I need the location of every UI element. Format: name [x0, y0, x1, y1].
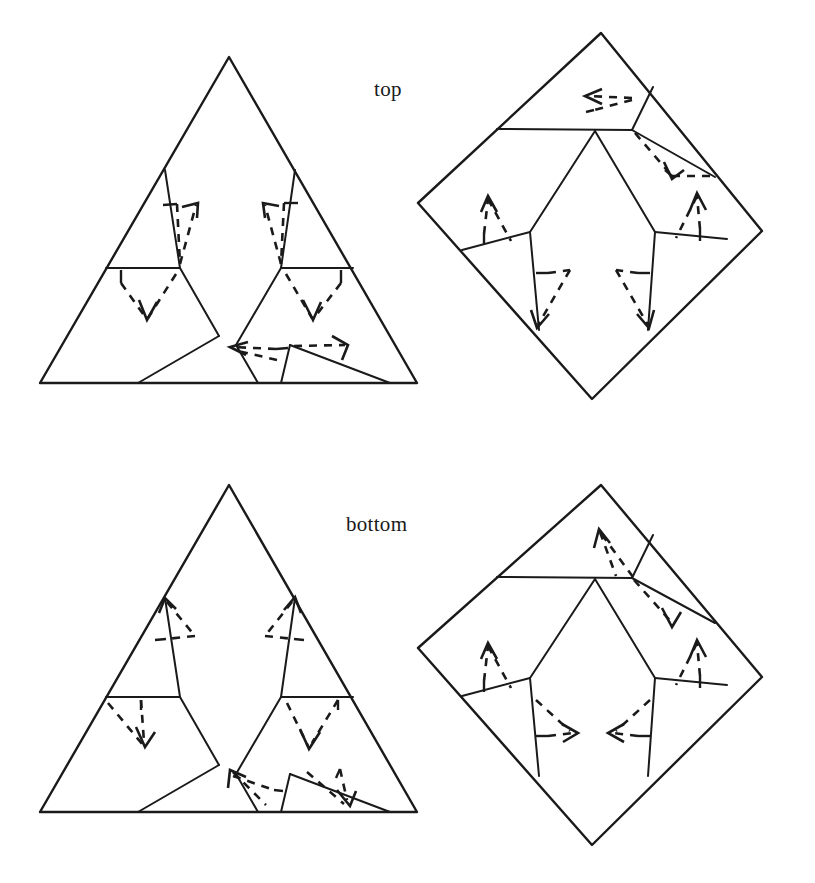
arrow-b-right-lower: [287, 700, 338, 749]
figure-canvas: top bottom: [0, 0, 815, 883]
diamond-arrow-top: [585, 89, 632, 112]
geometric-figure-panel: top bottom: [0, 0, 815, 883]
diamond-b-edge-left-vertical: [530, 678, 539, 776]
diamond-edge-right-horizontal: [655, 232, 727, 239]
panel-bottom-right-diamond: [418, 485, 762, 845]
diamond-b-edge-right-vertical: [648, 678, 655, 776]
diamond-b-edge-center-left: [530, 579, 595, 678]
internal-edge-b-lower-right-vertical: [281, 774, 290, 812]
internal-edge-b-center-diagonal: [138, 765, 219, 812]
label-bottom: bottom: [346, 512, 407, 536]
panel-top-left-triangle: [40, 57, 417, 383]
diamond-b-edge-left-horizontal: [462, 678, 530, 696]
diamond-b-edge-upper-horizontal: [497, 577, 632, 578]
triangle-outline: [40, 57, 417, 383]
diamond-edge-center-left: [530, 131, 595, 232]
diamond-b-arrow-lower-left: [536, 700, 578, 742]
diamond-b-edge-top-cell-right: [632, 535, 653, 578]
internal-edge-b-left-diagonal: [180, 697, 219, 765]
arrow-b-bottom-right: [307, 769, 356, 806]
arrow-b-left-lower: [108, 700, 155, 747]
internal-edge-right-diagonal: [236, 268, 281, 345]
diamond-b-arrow-right-upper: [634, 580, 681, 627]
arrow-right-upper: [263, 203, 298, 264]
internal-edge-lower-right-vertical: [281, 345, 290, 383]
arrow-b-bottom-left: [228, 770, 283, 805]
internal-edge-lower-right: [290, 345, 390, 383]
diamond-b-arrow-top: [594, 529, 633, 577]
diamond-edge-upper-horizontal: [497, 129, 632, 130]
diamond-arrow-right-upper: [635, 133, 715, 179]
internal-edge-left-diagonal: [180, 268, 219, 336]
diamond-edge-left-vertical: [530, 232, 539, 330]
diamond-edge-right-slant: [632, 130, 715, 177]
diamond-outline-bottom: [418, 485, 762, 845]
internal-edge-b-left-vertical: [165, 598, 180, 697]
arrow-left-lower: [121, 270, 176, 320]
internal-edge-b-right-diagonal: [236, 697, 281, 774]
internal-edge-center-diagonal: [138, 336, 219, 383]
label-top: top: [374, 77, 402, 101]
arrow-left-upper: [163, 203, 198, 264]
arrow-bottom-left-pointing: [230, 342, 288, 360]
arrow-right-lower: [286, 270, 341, 320]
panel-top-right-diamond: [418, 33, 762, 399]
internal-edge-b-right-vertical: [281, 598, 295, 697]
diamond-edge-top-cell-right: [632, 87, 653, 130]
diamond-edge-left-horizontal: [462, 232, 530, 250]
diamond-b-edge-right-horizontal: [655, 678, 727, 685]
diamond-b-arrow-lower-right: [608, 700, 650, 742]
arrow-b-right-upper: [265, 597, 304, 640]
diamond-b-edge-right-slant: [632, 578, 715, 623]
diamond-outline: [418, 33, 762, 399]
